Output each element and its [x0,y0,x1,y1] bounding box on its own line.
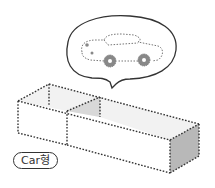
car-light [85,43,89,47]
thought-bubble [67,16,176,88]
car-detail [91,52,94,55]
car-hub [108,59,112,63]
box-inner-back-wall [18,84,199,140]
car-hub [142,58,146,62]
car-type-label: Car형 [13,152,58,169]
